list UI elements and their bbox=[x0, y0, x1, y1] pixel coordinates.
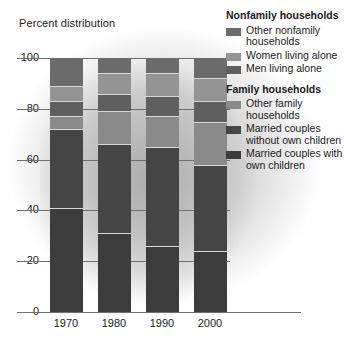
legend-swatch-icon bbox=[226, 151, 241, 159]
bar-segment bbox=[194, 101, 227, 121]
bar-segment bbox=[146, 116, 179, 146]
legend-swatch-icon bbox=[226, 28, 241, 36]
legend-heading: Nonfamily households bbox=[226, 10, 344, 22]
stacked-bar-chart: Percent distribution 020406080100 197019… bbox=[0, 0, 344, 350]
legend-label: Men living alone bbox=[246, 63, 322, 75]
bar-segment bbox=[146, 147, 179, 246]
bar-1970 bbox=[50, 58, 83, 312]
x-tick-label-2000: 2000 bbox=[188, 317, 232, 330]
legend-swatch-icon bbox=[226, 53, 241, 61]
bar-segment bbox=[194, 122, 227, 165]
bar-segment bbox=[50, 58, 83, 86]
bar-segment bbox=[50, 116, 83, 129]
legend-item[interactable]: Married couples without own children bbox=[226, 123, 344, 146]
bar-segment bbox=[50, 101, 83, 116]
x-tick-label-1990: 1990 bbox=[140, 317, 184, 330]
bar-1990 bbox=[146, 58, 179, 312]
bar-segment bbox=[50, 208, 83, 312]
bar-segment bbox=[194, 165, 227, 251]
bar-segment bbox=[98, 111, 131, 144]
legend-item[interactable]: Other nonfamily households bbox=[226, 25, 344, 48]
bar-segment bbox=[146, 73, 179, 96]
bar-segment bbox=[194, 251, 227, 312]
bar-segment bbox=[146, 246, 179, 312]
chart-axis-title: Percent distribution bbox=[19, 17, 115, 29]
legend-item[interactable]: Men living alone bbox=[226, 63, 344, 75]
x-axis-line bbox=[17, 312, 301, 313]
legend-item[interactable]: Women living alone bbox=[226, 50, 344, 62]
bar-segment bbox=[98, 233, 131, 312]
bar-segment bbox=[50, 86, 83, 101]
plot-area bbox=[45, 58, 230, 312]
legend-item[interactable]: Married couples with own children bbox=[226, 148, 344, 171]
bar-segment bbox=[98, 73, 131, 93]
legend-label: Other family households bbox=[246, 98, 344, 121]
legend-label: Married couples without own children bbox=[246, 123, 344, 146]
legend-swatch-icon bbox=[226, 126, 241, 134]
bar-segment bbox=[146, 58, 179, 73]
bar-segment bbox=[98, 58, 131, 73]
legend-label: Married couples with own children bbox=[246, 148, 344, 171]
bar-1980 bbox=[98, 58, 131, 312]
y-axis-labels: 020406080100 bbox=[11, 58, 39, 312]
bar-segment bbox=[50, 129, 83, 208]
legend-label: Women living alone bbox=[246, 50, 337, 62]
bar-segment bbox=[98, 144, 131, 233]
legend-label: Other nonfamily households bbox=[246, 25, 344, 48]
bar-2000 bbox=[194, 58, 227, 312]
chart-legend: Nonfamily householdsOther nonfamily hous… bbox=[226, 10, 344, 173]
legend-item[interactable]: Other family households bbox=[226, 98, 344, 121]
legend-swatch-icon bbox=[226, 66, 241, 74]
legend-heading: Family households bbox=[226, 84, 344, 96]
x-tick-label-1970: 1970 bbox=[44, 317, 88, 330]
bar-segment bbox=[194, 78, 227, 101]
legend-swatch-icon bbox=[226, 101, 241, 109]
bar-segment bbox=[98, 94, 131, 112]
x-tick-label-1980: 1980 bbox=[92, 317, 136, 330]
bar-segment bbox=[146, 96, 179, 116]
bar-segment bbox=[194, 58, 227, 78]
